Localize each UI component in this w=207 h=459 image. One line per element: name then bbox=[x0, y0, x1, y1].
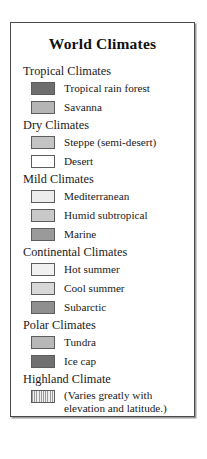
legend-entry-label: Steppe (semi-desert) bbox=[64, 134, 156, 150]
legend-entry[interactable]: Subarctic bbox=[23, 299, 188, 316]
legend-entry[interactable]: (Varies greatly with elevation and latit… bbox=[23, 388, 188, 414]
legend-title: World Climates bbox=[11, 35, 194, 53]
legend-color-swatch bbox=[31, 228, 55, 241]
legend-entry[interactable]: Humid subtropical bbox=[23, 207, 188, 224]
legend-color-swatch bbox=[31, 155, 55, 168]
legend-entry[interactable]: Marine bbox=[23, 226, 188, 243]
legend-entry-label: Marine bbox=[64, 226, 96, 242]
legend-color-swatch bbox=[31, 190, 55, 203]
legend-entry-label: Humid subtropical bbox=[64, 207, 148, 223]
legend-color-swatch bbox=[31, 336, 55, 349]
legend-entry-list: Tropical ClimatesTropical rain forestSav… bbox=[11, 64, 194, 414]
legend-entry-label: Cool summer bbox=[64, 280, 125, 296]
legend-entry[interactable]: Hot summer bbox=[23, 261, 188, 278]
legend-color-swatch bbox=[31, 282, 55, 295]
legend-entry-label: Ice cap bbox=[64, 353, 96, 369]
legend-entry[interactable]: Desert bbox=[23, 153, 188, 170]
legend-group-header: Polar Climates bbox=[23, 318, 188, 333]
legend-color-swatch bbox=[31, 82, 55, 95]
legend-entry-label: Hot summer bbox=[64, 261, 120, 277]
legend-entry-label: Savanna bbox=[64, 99, 102, 115]
legend-group-header: Dry Climates bbox=[23, 118, 188, 133]
legend-color-swatch bbox=[31, 209, 55, 222]
legend-entry[interactable]: Mediterranean bbox=[23, 188, 188, 205]
legend-entry[interactable]: Tropical rain forest bbox=[23, 80, 188, 97]
legend-entry-label: Tundra bbox=[64, 334, 96, 350]
legend-color-swatch bbox=[31, 136, 55, 149]
legend-color-swatch bbox=[31, 390, 55, 403]
legend-entry-label: Desert bbox=[64, 153, 93, 169]
legend-entry[interactable]: Ice cap bbox=[23, 353, 188, 370]
legend-color-swatch bbox=[31, 263, 55, 276]
legend-entry-label: (Varies greatly with elevation and latit… bbox=[64, 388, 167, 414]
legend-group-header: Mild Climates bbox=[23, 172, 188, 187]
legend-entry-label: Subarctic bbox=[64, 299, 106, 315]
legend-entry[interactable]: Steppe (semi-desert) bbox=[23, 134, 188, 151]
legend-group-header: Continental Climates bbox=[23, 245, 188, 260]
legend-entry-label: Tropical rain forest bbox=[64, 80, 150, 96]
legend-color-swatch bbox=[31, 301, 55, 314]
legend-group-header: Highland Climate bbox=[23, 372, 188, 387]
legend-color-swatch bbox=[31, 355, 55, 368]
legend-color-swatch bbox=[31, 101, 55, 114]
legend-entry[interactable]: Tundra bbox=[23, 334, 188, 351]
legend-entry-label: Mediterranean bbox=[64, 188, 129, 204]
legend-group-header: Tropical Climates bbox=[23, 64, 188, 79]
legend-entry[interactable]: Savanna bbox=[23, 99, 188, 116]
world-climates-legend-panel: World Climates Tropical ClimatesTropical… bbox=[10, 22, 195, 417]
legend-entry[interactable]: Cool summer bbox=[23, 280, 188, 297]
